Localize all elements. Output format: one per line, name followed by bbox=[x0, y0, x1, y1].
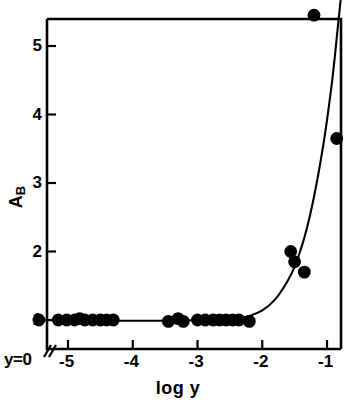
x-tick-label: -5 bbox=[59, 353, 74, 370]
x-axis-origin-label: y=0 bbox=[4, 351, 31, 368]
fitted-curve bbox=[39, 0, 341, 321]
plot-frame bbox=[47, 19, 341, 349]
data-point bbox=[107, 314, 120, 327]
y-axis-label-main: A bbox=[6, 195, 26, 208]
data-point-group bbox=[33, 9, 344, 328]
figure-container: log y AB y=0 -5-4-3-2-1 12345 bbox=[0, 0, 357, 406]
x-axis-label: log y bbox=[156, 378, 201, 399]
x-tick-label: -3 bbox=[189, 353, 204, 370]
y-axis-ticks bbox=[47, 46, 56, 320]
x-tick-label: -2 bbox=[253, 353, 268, 370]
data-point bbox=[308, 9, 321, 22]
y-tick-label: 3 bbox=[26, 174, 42, 191]
y-axis-label: AB bbox=[6, 186, 28, 208]
x-axis-ticks bbox=[68, 340, 327, 349]
data-point bbox=[288, 255, 301, 268]
data-point bbox=[177, 315, 190, 328]
y-tick-label: 2 bbox=[26, 243, 42, 260]
x-tick-label: -4 bbox=[124, 353, 139, 370]
axes-frame-lines bbox=[47, 19, 341, 349]
data-point bbox=[330, 132, 343, 145]
x-tick-label: -1 bbox=[318, 353, 333, 370]
y-tick-label: 5 bbox=[26, 37, 42, 54]
y-tick-label: 1 bbox=[26, 311, 42, 328]
data-point bbox=[298, 266, 311, 279]
scatter-plot-canvas bbox=[0, 0, 357, 406]
y-tick-label: 4 bbox=[26, 106, 42, 123]
data-point bbox=[243, 315, 256, 328]
